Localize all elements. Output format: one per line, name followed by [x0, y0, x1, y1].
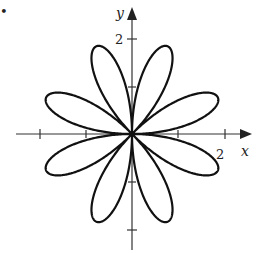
y-axis-label: y: [115, 5, 125, 21]
x-tick-label-2: 2: [216, 147, 224, 162]
y-tick-label-2: 2: [115, 32, 123, 47]
polar-rose-chart: • 2 x 2 y: [0, 0, 257, 253]
y-axis-arrow-icon: [127, 7, 137, 20]
x-axis-arrow-icon: [240, 129, 252, 139]
bullet-marker: •: [0, 4, 8, 19]
x-axis-label: x: [241, 143, 249, 159]
